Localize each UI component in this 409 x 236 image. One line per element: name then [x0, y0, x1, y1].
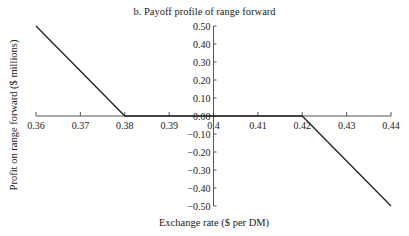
payoff-chart: 0.360.370.380.390.40.410.420.430.44 0.50…	[0, 0, 409, 236]
x-tick-label: 0.44	[382, 120, 400, 131]
y-tick-label: −0.20	[187, 147, 210, 158]
y-tick-label: 0.10	[193, 93, 211, 104]
y-tick-label: 0.30	[193, 57, 211, 68]
y-tick-label: 0.20	[193, 75, 211, 86]
y-tick-label: −0.10	[187, 129, 210, 140]
x-tick-label: 0.39	[160, 120, 178, 131]
x-axis-label: Exchange rate ($ per DM)	[159, 217, 269, 228]
y-tick-label: −0.50	[187, 201, 210, 212]
y-tick-label: −0.30	[187, 165, 210, 176]
y-axis-label: Profit on range forward ($ millions)	[8, 40, 19, 191]
x-tick-label: 0.38	[116, 120, 134, 131]
x-tick-label: 0.41	[249, 120, 267, 131]
y-tick-label: 0.40	[193, 39, 211, 50]
x-tick-label: 0.36	[27, 120, 45, 131]
x-tick-label: 0.37	[72, 120, 90, 131]
y-tick-label: 0.50	[193, 21, 211, 32]
y-tick-label: −0.40	[187, 183, 210, 194]
x-tick-label: 0.43	[338, 120, 356, 131]
